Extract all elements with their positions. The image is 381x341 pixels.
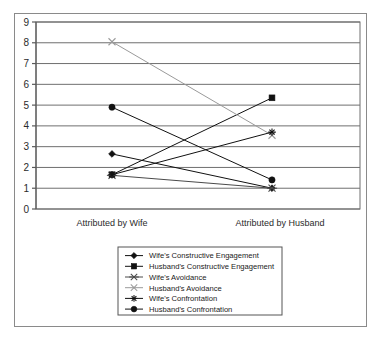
legend-label: Husband's Avoidance — [149, 284, 222, 293]
y-tick-label: 4 — [23, 120, 29, 131]
data-marker — [269, 95, 275, 101]
legend-label: Husband's Constructive Engagement — [149, 262, 275, 271]
data-marker — [268, 128, 275, 135]
y-tick-label: 0 — [23, 204, 29, 215]
y-tick-label: 8 — [23, 37, 29, 48]
data-marker — [109, 104, 115, 110]
plot-area — [36, 22, 360, 209]
x-label-husband: Attributed by Husband — [235, 218, 324, 228]
x-axis-labels: Attributed by WifeAttributed by Husband — [76, 218, 324, 228]
y-tick-label: 3 — [23, 141, 29, 152]
legend-label: Wife's Confrontation — [149, 294, 217, 303]
y-tick-label: 6 — [23, 79, 29, 90]
line-chart: 0123456789Attributed by WifeAttributed b… — [0, 0, 381, 341]
y-tick-label: 5 — [23, 100, 29, 111]
chart-figure: 0123456789Attributed by WifeAttributed b… — [0, 0, 381, 341]
y-tick-label: 1 — [23, 183, 29, 194]
x-label-wife: Attributed by Wife — [76, 218, 147, 228]
y-tick-label: 9 — [23, 17, 29, 28]
legend-label: Husband's Confrontation — [149, 305, 232, 314]
y-axis-ticks: 0123456789 — [23, 17, 36, 215]
legend: Wife's Constructive EngagementHusband's … — [118, 247, 282, 315]
y-tick-label: 2 — [23, 162, 29, 173]
legend-label: Wife's Avoidance — [149, 273, 206, 282]
data-marker — [131, 306, 137, 312]
data-marker — [108, 171, 115, 178]
data-marker — [131, 264, 136, 269]
data-marker — [269, 177, 275, 183]
legend-label: Wife's Constructive Engagement — [149, 251, 260, 260]
y-tick-label: 7 — [23, 58, 29, 69]
